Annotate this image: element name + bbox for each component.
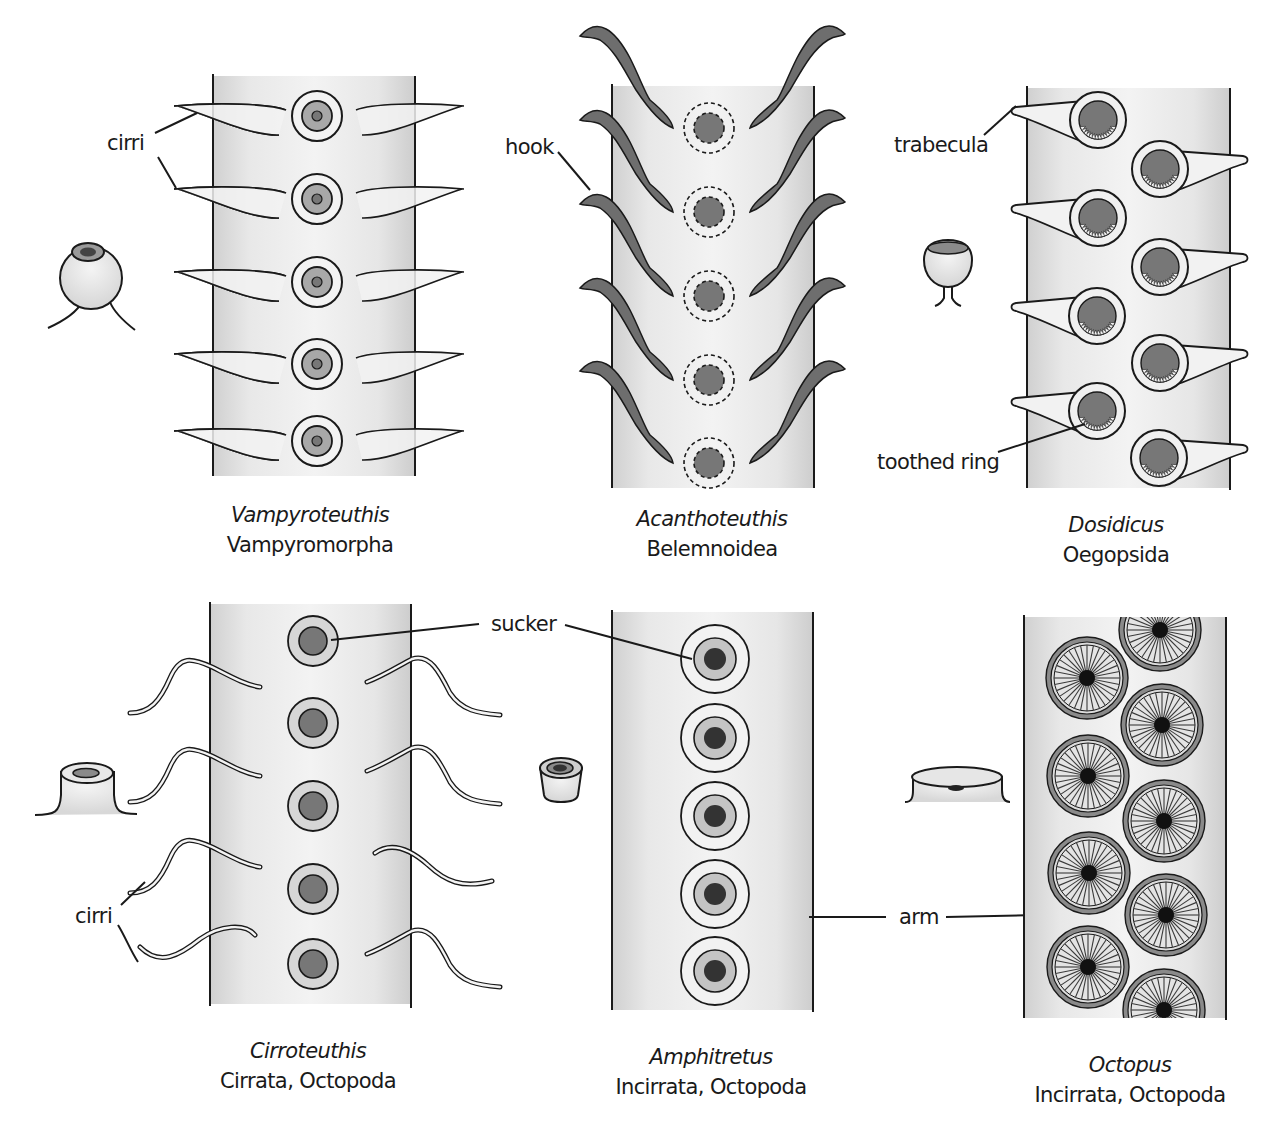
- caption-taxon: Belemnoidea: [637, 534, 788, 564]
- caption-genus: Vampyroteuthis: [227, 500, 394, 530]
- caption-amphitretus: Amphitretus Incirrata, Octopoda: [615, 1042, 806, 1102]
- caption-octopus: Octopus Incirrata, Octopoda: [1034, 1050, 1225, 1110]
- label-cirri-bottom: cirri: [75, 904, 112, 928]
- caption-taxon: Cirrata, Octopoda: [220, 1066, 396, 1096]
- label-sucker: sucker: [491, 612, 556, 636]
- label-hook: hook: [505, 135, 554, 159]
- label-arm: arm: [899, 905, 939, 929]
- caption-taxon: Incirrata, Octopoda: [1034, 1080, 1225, 1110]
- caption-cirroteuthis: Cirroteuthis Cirrata, Octopoda: [220, 1036, 396, 1096]
- caption-acanthoteuthis: Acanthoteuthis Belemnoidea: [637, 504, 788, 564]
- caption-taxon: Incirrata, Octopoda: [615, 1072, 806, 1102]
- sucker-side-view-icon: [924, 240, 972, 306]
- label-cirri-top: cirri: [107, 131, 144, 155]
- caption-vampyroteuthis: Vampyroteuthis Vampyromorpha: [227, 500, 394, 560]
- sucker-side-view-icon: [48, 243, 135, 330]
- caption-taxon: Vampyromorpha: [227, 530, 394, 560]
- sucker-side-view-icon: [905, 767, 1010, 802]
- label-trabecula: trabecula: [894, 133, 988, 157]
- label-toothed-ring: toothed ring: [877, 450, 999, 474]
- suckers: [681, 625, 749, 1005]
- arm: [1027, 88, 1230, 488]
- caption-genus: Amphitretus: [615, 1042, 806, 1072]
- caption-taxon: Oegopsida: [1063, 540, 1170, 570]
- caption-genus: Dosidicus: [1063, 510, 1170, 540]
- caption-dosidicus: Dosidicus Oegopsida: [1063, 510, 1170, 570]
- panel-octopus: [905, 589, 1226, 1051]
- caption-genus: Cirroteuthis: [220, 1036, 396, 1066]
- sucker-side-view-icon: [540, 758, 582, 802]
- caption-genus: Acanthoteuthis: [637, 504, 788, 534]
- panel-cirroteuthis: [35, 602, 500, 1008]
- panel-acanthoteuthis: [558, 26, 845, 488]
- sucker-side-view-icon: [35, 763, 137, 815]
- caption-genus: Octopus: [1034, 1050, 1225, 1080]
